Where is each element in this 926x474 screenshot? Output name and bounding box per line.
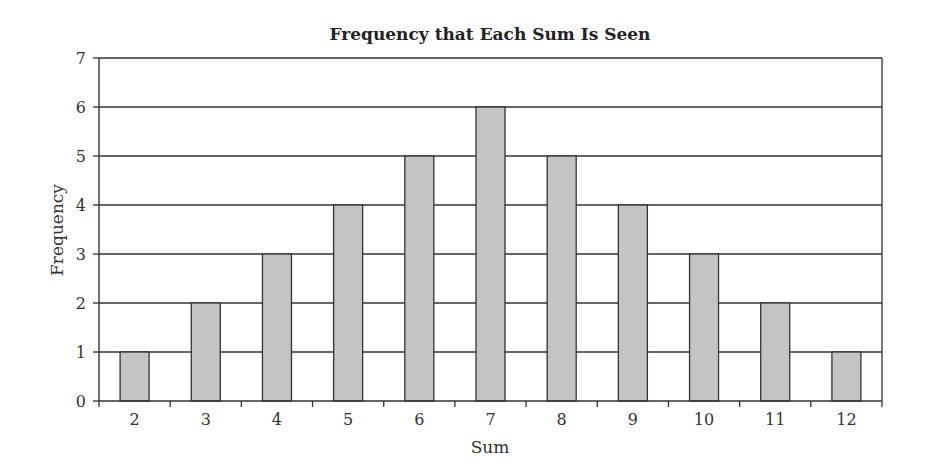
- bar-sum-9: [618, 205, 647, 401]
- y-tick-labels: 01234567: [76, 49, 86, 411]
- bar-sum-6: [405, 156, 434, 401]
- x-tick-label: 9: [628, 410, 638, 429]
- x-tick-label: 11: [765, 410, 785, 429]
- x-tick-label: 8: [557, 410, 567, 429]
- x-tick-label: 10: [694, 410, 714, 429]
- bar-sum-3: [191, 303, 220, 401]
- x-tick-labels: 23456789101112: [129, 410, 856, 429]
- y-tick-label: 2: [76, 294, 86, 313]
- bar-chart: Frequency that Each Sum Is Seen 01234567…: [0, 0, 926, 474]
- x-tick-label: 12: [836, 410, 856, 429]
- y-tick-label: 0: [76, 392, 86, 411]
- y-tick-label: 7: [76, 49, 86, 68]
- bar-sum-8: [547, 156, 576, 401]
- y-tick-label: 5: [76, 147, 86, 166]
- y-tick-label: 4: [76, 196, 86, 215]
- chart-title: Frequency that Each Sum Is Seen: [330, 24, 651, 44]
- x-tick-label: 3: [201, 410, 211, 429]
- y-tick-label: 3: [76, 245, 86, 264]
- bar-sum-7: [476, 107, 505, 401]
- x-tick-label: 6: [414, 410, 424, 429]
- y-tick-label: 6: [76, 98, 86, 117]
- x-tick-label: 4: [272, 410, 282, 429]
- bar-sum-11: [761, 303, 790, 401]
- bar-sum-4: [262, 254, 291, 401]
- bar-sum-5: [334, 205, 363, 401]
- x-tick-label: 5: [343, 410, 353, 429]
- x-tick-label: 7: [485, 410, 495, 429]
- x-tick-label: 2: [129, 410, 139, 429]
- y-tick-label: 1: [76, 343, 86, 362]
- bar-sum-2: [120, 352, 149, 401]
- y-axis-label: Frequency: [47, 184, 67, 276]
- bar-sum-12: [832, 352, 861, 401]
- x-axis-label: Sum: [471, 437, 510, 457]
- bar-sum-10: [690, 254, 719, 401]
